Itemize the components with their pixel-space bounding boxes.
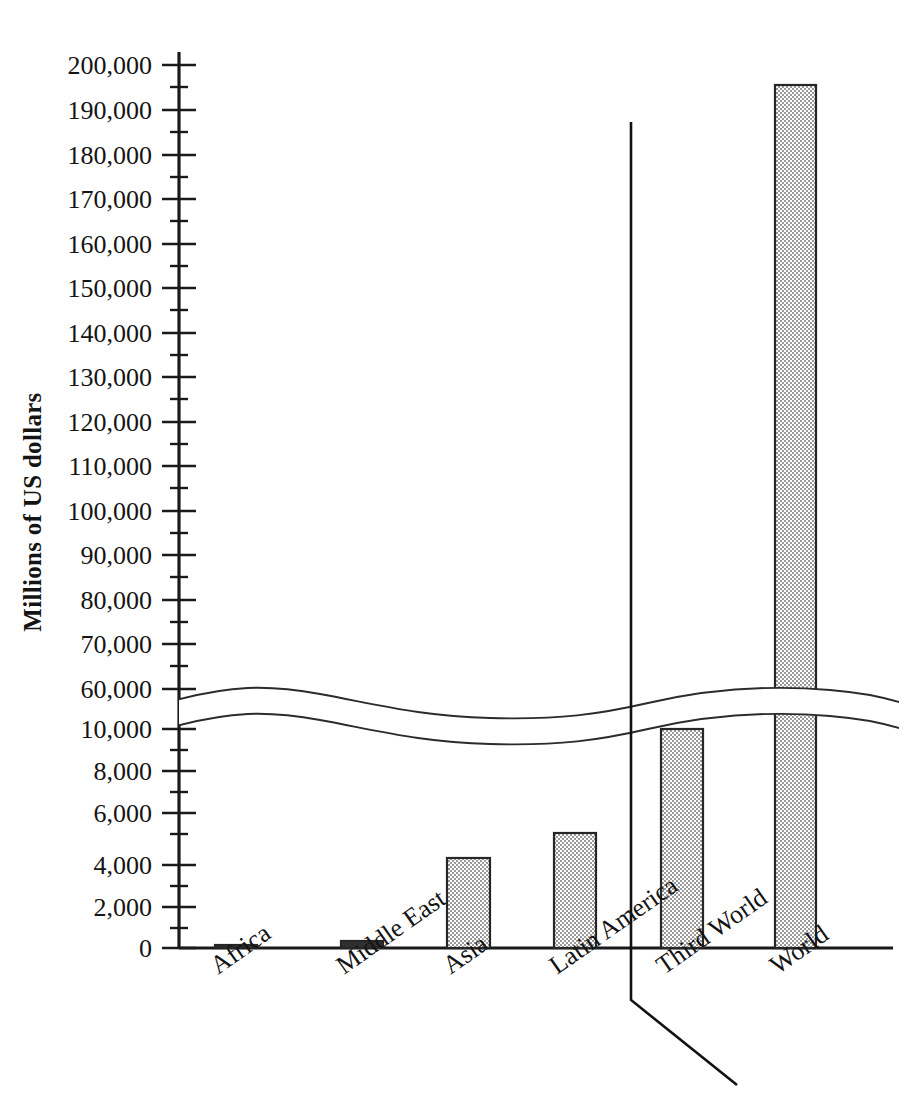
y-axis-tick-label: 70,000 (81, 630, 153, 659)
y-axis-tick-label: 100,000 (68, 497, 153, 526)
y-axis-tick-label: 190,000 (68, 96, 153, 125)
y-axis-tick-label: 0 (139, 934, 152, 963)
y-axis-tick-label: 200,000 (68, 51, 153, 80)
y-axis-tick-label: 8,000 (94, 757, 153, 786)
x-axis-label-text: Africa (205, 918, 276, 980)
y-axis-tick-label: 80,000 (81, 586, 153, 615)
y-axis-tick-label: 150,000 (68, 274, 153, 303)
y-axis-tick-label: 120,000 (68, 408, 153, 437)
y-axis-tick-label: 160,000 (68, 230, 153, 259)
x-axis-label-text: Middle East (331, 883, 452, 980)
y-axis-tick-label: 2,000 (94, 893, 153, 922)
bar-series (215, 85, 816, 948)
y-axis-tick-label: 4,000 (94, 851, 153, 880)
y-axis-tick-label: 180,000 (68, 141, 153, 170)
y-axis-tick-label: 6,000 (94, 799, 153, 828)
y-axis-title: Millions of US dollars (19, 392, 46, 631)
x-axis-category-labels: AfricaMiddle EastAsiaLatin AmericaThird … (205, 870, 834, 980)
y-axis-tick-label: 130,000 (68, 363, 153, 392)
y-axis-tick-label: 10,000 (81, 715, 153, 744)
x-axis-label-middle-east: Middle East (331, 883, 452, 980)
bar[interactable] (661, 729, 703, 948)
y-axis-title-text: Millions of US dollars (19, 392, 46, 631)
y-axis-tick-label: 170,000 (68, 185, 153, 214)
x-axis-label-africa: Africa (205, 918, 276, 980)
bar-chart: Millions of US dollars 200,000190,000180… (0, 0, 917, 1118)
y-axis-ticks: 200,000190,000180,000170,000160,000150,0… (68, 51, 197, 963)
y-axis-tick-label: 90,000 (81, 541, 153, 570)
y-axis-tick-label: 60,000 (81, 675, 153, 704)
y-axis-tick-label: 140,000 (68, 319, 153, 348)
chart-container: Millions of US dollars 200,000190,000180… (0, 0, 917, 1118)
bar[interactable] (775, 85, 816, 948)
y-axis-tick-label: 110,000 (68, 452, 152, 481)
